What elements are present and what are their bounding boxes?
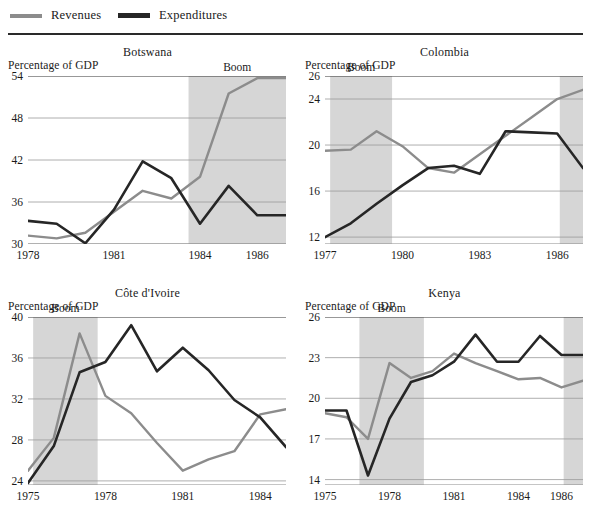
x-tick-label: 1978 (17, 249, 40, 261)
legend: Revenues Expenditures (0, 0, 591, 38)
plot-canvas (28, 76, 286, 244)
y-tick-label: 32 (12, 393, 24, 405)
y-tick-label: 42 (12, 154, 24, 166)
legend-swatch-expenditures-icon (118, 13, 150, 18)
plot-area: 12162024261977198019831986Boom (325, 76, 583, 244)
boom-shading-1 (564, 317, 583, 485)
y-tick-label: 20 (309, 139, 321, 151)
chart-title: Kenya (297, 286, 591, 301)
x-tick-label: 1978 (378, 490, 401, 502)
y-tick-label: 40 (12, 311, 24, 323)
y-tick-label: 24 (309, 93, 321, 105)
legend-divider (8, 33, 583, 35)
x-tick-label: 1984 (249, 490, 272, 502)
y-tick-label: 14 (309, 474, 321, 486)
x-tick-label: 1984 (189, 249, 212, 261)
plot-canvas (325, 76, 583, 244)
legend-label-expenditures: Expenditures (159, 9, 227, 22)
boom-shading-0 (330, 76, 392, 244)
x-tick-label: 1981 (103, 249, 126, 261)
boom-annotation-label: Boom (51, 302, 79, 314)
y-tick-label: 36 (12, 352, 24, 364)
legend-label-revenues: Revenues (51, 9, 101, 22)
legend-item-expenditures: Expenditures (118, 9, 227, 22)
y-tick-label: 23 (309, 352, 321, 364)
plot-canvas (325, 317, 583, 485)
x-tick-label: 1975 (314, 490, 337, 502)
y-tick-label: 16 (309, 185, 321, 197)
x-tick-label: 1981 (443, 490, 466, 502)
boom-annotation-label: Boom (378, 302, 406, 314)
y-tick-label: 48 (12, 112, 24, 124)
x-tick-label: 1986 (550, 490, 573, 502)
boom-shading-0 (359, 317, 424, 485)
y-tick-label: 36 (12, 196, 24, 208)
y-tick-label: 12 (309, 231, 321, 243)
y-tick-label: 17 (309, 433, 321, 445)
plot-area: 30364248541978198119841986Boom (28, 76, 286, 244)
x-tick-label: 1984 (507, 490, 530, 502)
x-tick-label: 1981 (171, 490, 194, 502)
plot-canvas (28, 317, 286, 485)
legend-item-revenues: Revenues (10, 9, 101, 22)
plot-area: 141720232619751978198119841986Boom (325, 317, 583, 485)
legend-swatch-revenues-icon (10, 14, 42, 18)
chart-title: Botswana (0, 45, 295, 60)
y-tick-label: 26 (309, 311, 321, 323)
y-tick-label: 24 (12, 475, 24, 487)
x-tick-label: 1986 (546, 249, 569, 261)
x-tick-label: 1977 (314, 249, 337, 261)
x-tick-label: 1983 (468, 249, 491, 261)
x-tick-label: 1978 (94, 490, 117, 502)
boom-annotation-label: Boom (223, 61, 251, 73)
chart-panel-kenya: KenyaPercentage of GDP141720232619751978… (297, 285, 591, 524)
chart-title: Colombia (297, 45, 591, 60)
x-tick-label: 1980 (391, 249, 414, 261)
y-tick-label: 20 (309, 392, 321, 404)
y-tick-label: 54 (12, 70, 24, 82)
chart-title: Côte d'Ivoire (0, 286, 295, 301)
x-tick-label: 1986 (246, 249, 269, 261)
boom-shading-1 (560, 76, 583, 244)
chart-panel-botswana: BotswanaPercentage of GDP303642485419781… (0, 44, 295, 284)
chart-panel-c-te-d-ivoire: Côte d'IvoirePercentage of GDP2428323640… (0, 285, 295, 524)
chart-panel-colombia: ColombiaPercentage of GDP121620242619771… (297, 44, 591, 284)
plot-area: 24283236401975197819811984Boom (28, 317, 286, 485)
boom-annotation-label: Boom (347, 61, 375, 73)
figure: Revenues Expenditures BotswanaPercentage… (0, 0, 591, 524)
x-tick-label: 1975 (17, 490, 40, 502)
y-tick-label: 26 (309, 70, 321, 82)
y-tick-label: 28 (12, 434, 24, 446)
